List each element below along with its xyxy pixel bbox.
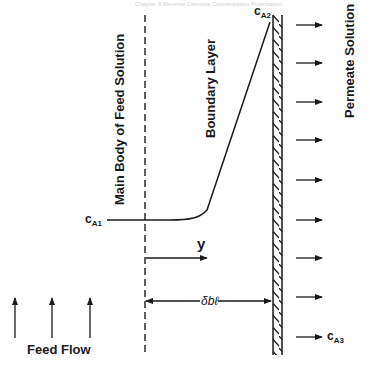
diagram-canvas: Chapter 8 Reverse Osmosis Concentration … (0, 0, 370, 368)
y-label: y (197, 235, 206, 252)
c-a1-label: cA1 (85, 212, 102, 228)
feed-flow-arrows (15, 298, 90, 338)
boundary-thickness-label: δbℓ (201, 294, 219, 308)
membrane (273, 15, 282, 355)
boundary-layer-label: Boundary Layer (203, 39, 218, 138)
permeate-flow-arrows (296, 25, 322, 337)
permeate-region-label: Permeate Solution (342, 4, 357, 118)
c-a3-label: cA3 (327, 329, 344, 345)
concentration-profile-curve (107, 22, 270, 220)
bulk-region-label: Main Body of Feed Solution (112, 34, 127, 205)
feed-flow-label: Feed Flow (27, 342, 91, 357)
